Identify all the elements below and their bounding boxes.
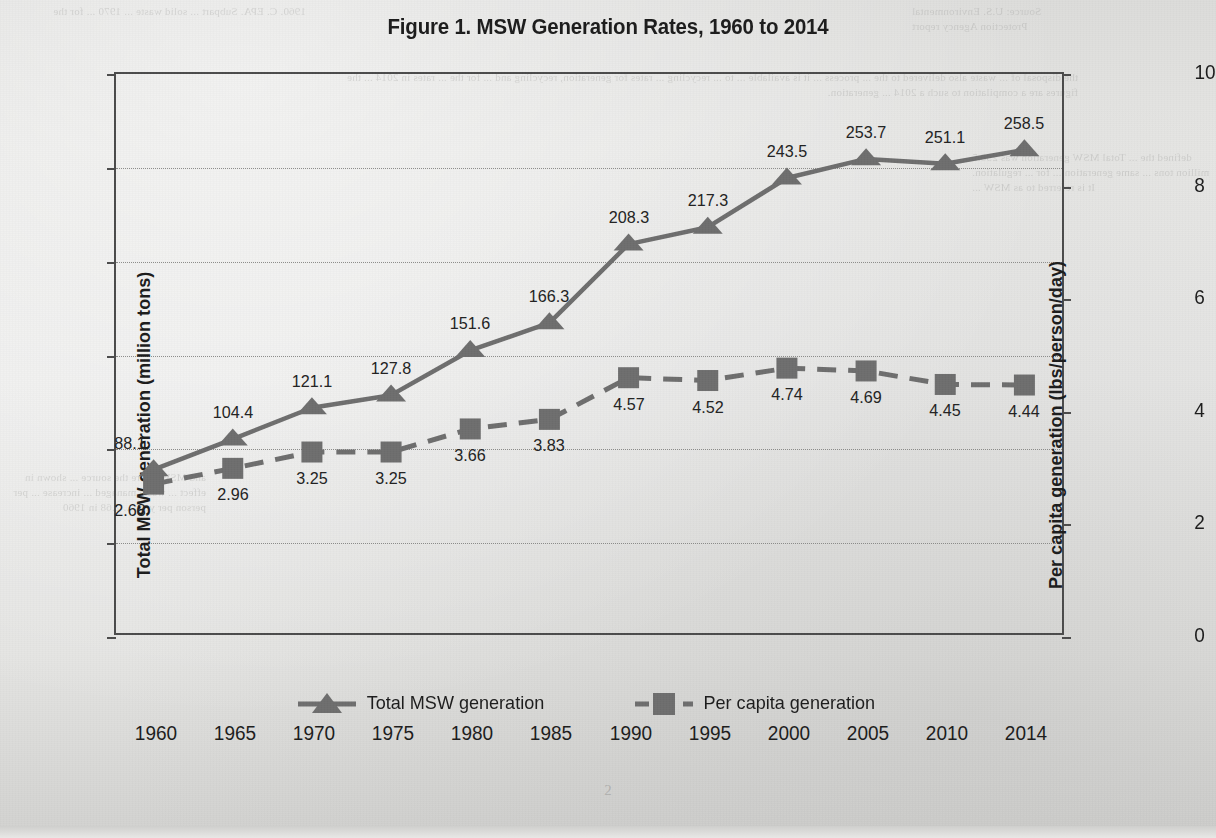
x-axis-tick-label: 2010 (926, 722, 968, 745)
x-axis-tick-label: 2000 (768, 722, 810, 745)
x-axis-tick-label: 1990 (609, 722, 651, 745)
left-axis-title: Total MSW generation (million tons) (133, 202, 155, 649)
data-point-label: 3.66 (455, 446, 486, 466)
data-point-label: 166.3 (529, 287, 569, 307)
data-point-label: 3.25 (375, 469, 406, 489)
legend-label: Total MSW generation (367, 692, 545, 714)
data-point-label: 104.4 (213, 403, 253, 423)
gridline (116, 262, 1062, 263)
data-point-label: 258.5 (1004, 114, 1044, 134)
data-point-label: 3.83 (534, 436, 565, 456)
right-axis-tick-label: 2 (1194, 511, 1205, 534)
data-point-label: 4.74 (771, 385, 802, 405)
chart-legend: Total MSW generationPer capita generatio… (114, 690, 1064, 716)
legend-label: Per capita generation (704, 692, 876, 714)
chart-title: Figure 1. MSW Generation Rates, 1960 to … (43, 14, 1174, 40)
right-axis-tick-label: 8 (1194, 174, 1205, 197)
data-point-label: 4.45 (930, 401, 961, 421)
gridline (116, 168, 1062, 169)
right-axis-tick-label: 10 (1195, 61, 1216, 84)
left-axis-tick (107, 637, 116, 639)
data-point-label: 151.6 (450, 314, 490, 334)
left-axis-tick (107, 543, 116, 545)
right-axis-title: Per capita generation (lbs/person/day) (1045, 202, 1067, 649)
data-point-label: 253.7 (846, 123, 886, 143)
gridline (116, 356, 1062, 357)
x-axis-tick-label: 1965 (214, 722, 256, 745)
left-axis-tick (107, 262, 116, 264)
data-point-label: 121.1 (292, 372, 332, 392)
x-axis-tick-label: 2005 (847, 722, 889, 745)
triangle-marker (298, 690, 356, 716)
data-point-label: 4.52 (692, 398, 723, 418)
x-axis-tick-label: 1995 (689, 722, 731, 745)
data-point-label: 2.96 (217, 485, 248, 505)
right-axis-tick-label: 0 (1194, 624, 1205, 647)
legend-item[interactable]: Total MSW generation (298, 690, 549, 716)
square-marker (635, 690, 693, 716)
data-point-label: 127.8 (371, 359, 411, 379)
right-axis-tick (1062, 187, 1071, 189)
data-point-label: 251.1 (925, 128, 965, 148)
x-axis-tick-label: 2014 (1005, 722, 1047, 745)
x-axis-tick-label: 1985 (530, 722, 572, 745)
data-point-label: 88.1 (114, 434, 145, 454)
x-axis-tick-label: 1970 (293, 722, 335, 745)
scanned-page: 1960. C. EPA. Subpart ... solid waste ..… (0, 0, 1216, 838)
left-axis-tick (107, 356, 116, 358)
data-point-label: 3.25 (296, 469, 327, 489)
data-point-label: 217.3 (688, 191, 728, 211)
plot-area: 050100150200250300 0246810 Total MSW gen… (114, 72, 1064, 635)
x-axis-tick-label: 1960 (134, 722, 176, 745)
page-number: 2 (0, 782, 1216, 799)
data-point-label: 4.57 (613, 395, 644, 415)
data-point-label: 2.68 (114, 501, 145, 521)
right-axis-tick (1062, 74, 1071, 76)
x-axis-tick-label: 1975 (372, 722, 414, 745)
data-point-label: 4.69 (850, 388, 881, 408)
gridline (116, 449, 1062, 450)
figure-chart: Figure 1. MSW Generation Rates, 1960 to … (0, 0, 1216, 770)
gridline (116, 543, 1062, 544)
data-point-label: 4.44 (1009, 402, 1040, 422)
right-axis-tick-label: 4 (1194, 399, 1205, 422)
left-axis-tick (107, 168, 116, 170)
data-point-label: 243.5 (767, 142, 807, 162)
x-axis-tick-label: 1980 (451, 722, 493, 745)
left-axis-tick (107, 74, 116, 76)
right-axis-tick-label: 6 (1194, 286, 1205, 309)
data-point-label: 208.3 (608, 208, 648, 228)
page-edge-shadow (0, 826, 1216, 838)
legend-item[interactable]: Per capita generation (635, 690, 880, 716)
